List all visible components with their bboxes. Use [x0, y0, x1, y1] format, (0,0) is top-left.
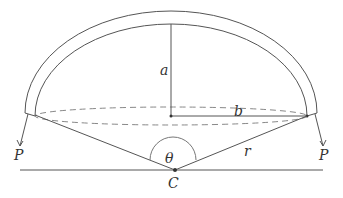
label-a: a	[160, 62, 168, 78]
left-r-line	[35, 115, 175, 170]
right-force-arrow	[315, 114, 323, 146]
label-r: r	[244, 143, 252, 159]
label-theta: θ	[165, 150, 174, 166]
center-point	[170, 115, 173, 118]
right-arrowhead-icon	[320, 140, 326, 146]
right-r-line	[175, 116, 307, 170]
left-arrowhead-icon	[17, 140, 23, 146]
arch-diagram: a b θ r C P P	[0, 0, 343, 198]
point-c	[173, 168, 177, 172]
label-c: C	[168, 175, 179, 191]
left-force-arrow	[20, 114, 28, 146]
label-b: b	[234, 103, 243, 119]
label-p-left: P	[13, 147, 24, 163]
left-end-cap	[25, 113, 35, 116]
label-p-right: P	[318, 147, 329, 163]
